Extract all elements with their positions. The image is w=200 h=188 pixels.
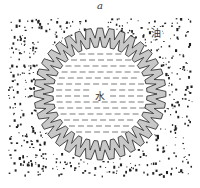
oil-label: 油 [151, 25, 161, 40]
water-label: 水 [95, 88, 105, 103]
